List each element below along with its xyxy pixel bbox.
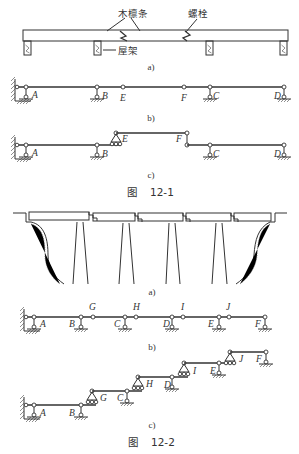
fig12-1-sublabel-a: a) [148,62,155,72]
fig12-2-sublabel-b: b) [148,342,156,352]
node-D: D [273,149,281,159]
node-D: D [163,380,171,390]
node-H: H [132,302,141,312]
node-A: A [39,319,46,329]
node-D: D [162,319,170,329]
node-E: E [207,319,214,329]
fig12-1-panel-b-beam [11,77,291,104]
node-F: F [255,354,262,364]
node-J: J [239,354,244,364]
figure-12-2: a) A B G C H D I E J F b) [13,212,287,448]
node-C: C [213,91,220,101]
node-I: I [180,302,185,312]
node-J: J [226,302,231,312]
label-roof-truss: 屋架 [118,45,138,56]
fig12-2-sublabel-a: a) [149,287,156,297]
node-A: A [31,90,38,100]
node-B: B [69,319,75,329]
node-E: E [121,134,128,144]
label-bolt: 螺栓 [188,8,208,19]
fig12-2-panel-a-bridge [13,212,287,284]
fig12-1-panel-c-beam [11,131,291,162]
node-H: H [145,379,154,389]
node-E: E [119,93,126,103]
fig12-1-sublabel-c: c) [148,170,155,180]
node-G: G [89,302,96,312]
node-D: D [273,91,281,101]
fig12-2-sublabel-c: c) [149,420,156,430]
node-F: F [180,93,187,103]
node-F: F [254,319,261,329]
fig12-1-caption-number: 12-1 [150,186,174,198]
fig12-2-caption-number: 12-2 [151,436,175,448]
figure-12-1: 木檩条 螺栓 屋架 a) A B E F C D b) [11,8,291,198]
node-A: A [31,148,38,158]
node-A: A [39,408,46,418]
figures-canvas: 木檩条 螺栓 屋架 a) A B E F C D b) [0,0,299,454]
node-C: C [213,149,220,159]
label-purlin: 木檩条 [118,8,148,19]
node-C: C [117,393,124,403]
fig12-2-panel-b-beam [20,307,272,334]
fig12-1-caption-prefix: 图 [127,186,137,198]
node-C: C [114,319,121,329]
node-B: B [102,91,108,101]
node-B: B [69,408,75,418]
node-G: G [100,393,107,403]
fig12-2-caption-prefix: 图 [128,436,138,448]
node-I: I [192,366,197,376]
node-F: F [175,134,182,144]
node-B: B [102,149,108,159]
fig12-1-sublabel-b: b) [147,113,155,123]
fig12-1-panel-a-purlin-drawing [23,18,288,55]
node-E: E [209,366,216,376]
